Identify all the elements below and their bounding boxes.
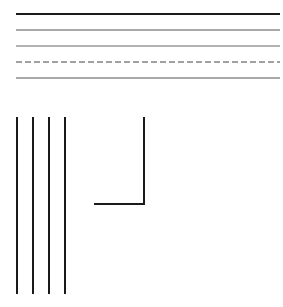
corner-l-shape xyxy=(94,117,144,204)
line-diagram xyxy=(0,0,283,307)
horizontal-line-group xyxy=(16,14,280,78)
vertical-line-group xyxy=(17,117,65,294)
corner-polyline xyxy=(94,117,144,204)
